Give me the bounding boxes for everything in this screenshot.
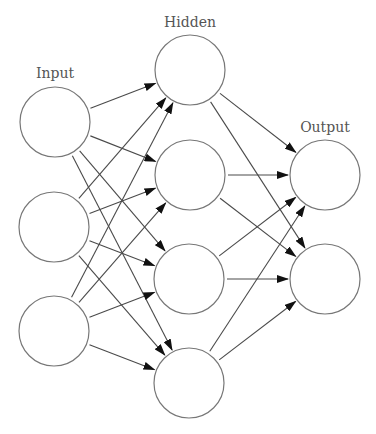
- hidden-layer-label: Hidden: [164, 14, 216, 30]
- input-layer-label: Input: [36, 65, 75, 81]
- input-0-to-hidden-0-arrow: [90, 83, 155, 108]
- output-layer-label: Output: [300, 119, 350, 135]
- hidden-node-3: [154, 244, 224, 314]
- input-node-3: [19, 296, 89, 366]
- input-2-to-hidden-1-arrow: [79, 203, 166, 302]
- output-node-1: [290, 140, 360, 210]
- hidden-0-to-output-0-arrow: [220, 93, 296, 152]
- input-node-1: [20, 87, 90, 157]
- input-1-to-hidden-1-arrow: [89, 188, 155, 213]
- nodes: [19, 35, 360, 418]
- hidden-node-1: [155, 35, 225, 105]
- hidden-1-to-output-1-arrow: [220, 198, 296, 256]
- hidden-node-2: [155, 140, 225, 210]
- connections: [72, 83, 305, 369]
- hidden-node-4: [154, 348, 224, 418]
- input-2-to-hidden-3-arrow: [89, 345, 154, 370]
- neural-network-diagram: Input Hidden Output: [0, 0, 376, 434]
- input-node-2: [19, 192, 89, 262]
- input-1-to-hidden-0-arrow: [79, 98, 166, 198]
- input-0-to-hidden-1-arrow: [90, 136, 155, 162]
- input-2-to-hidden-2-arrow: [89, 292, 154, 317]
- output-node-2: [290, 244, 360, 314]
- hidden-3-to-output-1-arrow: [219, 301, 295, 359]
